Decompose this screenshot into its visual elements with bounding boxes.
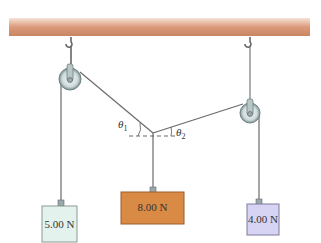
right-hook-icon (245, 37, 251, 47)
left-hook-icon (66, 37, 72, 64)
weight-4n-label: 4.00 N (247, 213, 279, 225)
theta2-label: θ2 (176, 126, 185, 141)
ropes (61, 72, 259, 207)
weight-5n-label: 5.00 N (42, 218, 77, 230)
theta1-label: θ1 (118, 118, 127, 133)
left-pulley-icon (59, 64, 81, 90)
right-pulley-icon (240, 99, 260, 123)
ceiling-beam (9, 18, 310, 36)
theta2-arc (171, 127, 172, 136)
theta1-arc (138, 123, 141, 136)
weight-8n-label: 8.00 N (121, 201, 184, 213)
